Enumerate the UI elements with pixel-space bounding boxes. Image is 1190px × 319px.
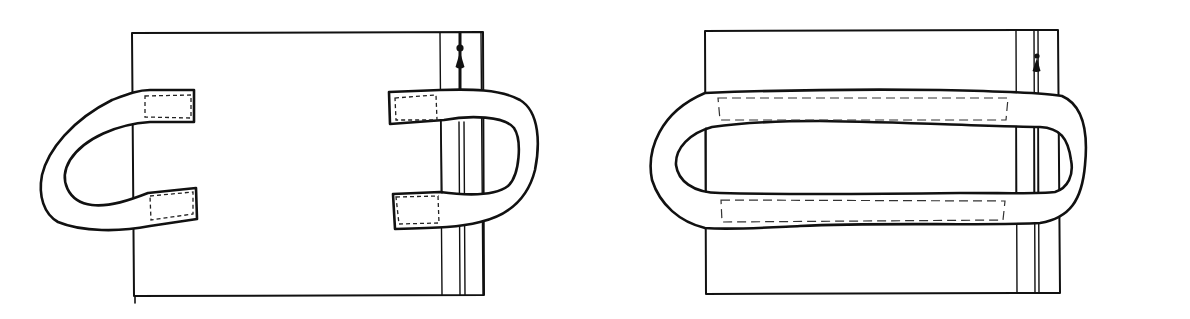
zipper-pull-icon bbox=[456, 44, 465, 68]
bag-panel-left bbox=[132, 32, 484, 303]
diagram-canvas bbox=[0, 0, 1190, 319]
diagram-stage bbox=[0, 0, 1190, 319]
handle-closed-loop bbox=[651, 90, 1086, 229]
handle-left-open bbox=[41, 90, 197, 230]
bag-panel-right bbox=[705, 30, 1060, 294]
handle-right-over-zipper bbox=[389, 90, 538, 229]
step-2-figure bbox=[651, 30, 1086, 294]
step-1-figure bbox=[41, 32, 538, 303]
